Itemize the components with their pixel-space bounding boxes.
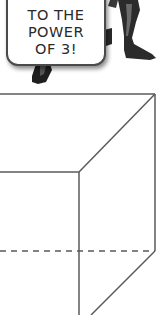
top-right-diagonal bbox=[79, 94, 155, 172]
bottom-right-diagonal bbox=[91, 251, 155, 315]
cube-diagram bbox=[0, 0, 168, 315]
